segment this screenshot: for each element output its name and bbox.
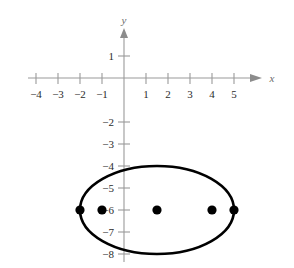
- y-tick-label: −7: [102, 226, 114, 238]
- data-point-focus: [97, 205, 106, 214]
- data-point-focus: [207, 205, 216, 214]
- coordinate-plane-plot: x y −4−3−2−112345 1−2−3−4−5−6−7−8: [0, 0, 294, 268]
- x-tick-label: 4: [209, 88, 215, 100]
- x-tick-label: 2: [165, 88, 171, 100]
- marked-points-group: [75, 205, 238, 214]
- x-tick-group: −4−3−2−112345: [30, 73, 237, 100]
- x-axis-arrow-icon: [250, 74, 262, 82]
- data-point-center: [152, 205, 161, 214]
- y-axis-label: y: [121, 14, 127, 26]
- y-tick-group: 1−2−3−4−5−6−7−8: [102, 50, 130, 260]
- y-tick-label: −2: [102, 116, 114, 128]
- y-tick-label: 1: [109, 50, 115, 62]
- figure-canvas: x y −4−3−2−112345 1−2−3−4−5−6−7−8: [0, 0, 294, 268]
- y-tick-label: −4: [102, 160, 114, 172]
- x-tick-label: −3: [52, 88, 64, 100]
- y-axis-arrow-icon: [120, 28, 128, 38]
- x-axis-label: x: [269, 72, 275, 84]
- x-tick-label: 3: [187, 88, 193, 100]
- y-tick-label: −8: [102, 248, 114, 260]
- x-tick-label: −4: [30, 88, 42, 100]
- x-tick-label: 5: [231, 88, 237, 100]
- x-tick-label: −2: [74, 88, 86, 100]
- x-tick-label: −1: [96, 88, 108, 100]
- data-point-vertex: [229, 205, 238, 214]
- y-tick-label: −3: [102, 138, 114, 150]
- x-tick-label: 1: [143, 88, 149, 100]
- y-axis: y: [120, 14, 128, 262]
- x-axis: x: [28, 72, 275, 84]
- data-point-vertex: [75, 205, 84, 214]
- y-tick-label: −5: [102, 182, 114, 194]
